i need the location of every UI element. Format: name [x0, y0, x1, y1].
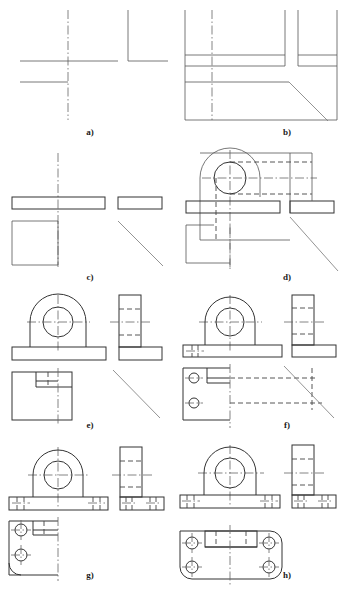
panel-h-top-view-boss-rect [205, 531, 257, 547]
panel-g-bolt-hole-front-left [12, 497, 30, 510]
panel-e-side-view-vertical-leg [119, 295, 141, 347]
panel-h-side-view-hidden-bore [292, 459, 314, 485]
panel-f [172, 290, 344, 438]
panel-g-top-bolt-hole-lower [11, 545, 31, 565]
panel-b-front-view-box [185, 10, 285, 120]
panel-h-side-bolt-hole-left [294, 495, 309, 508]
panel-e-top-view-outline [12, 372, 72, 420]
panel-h-bolt-hole-front-left [182, 495, 200, 508]
panel-d-top-view-outline [186, 225, 230, 263]
panel-c-base-plate-side [118, 197, 162, 209]
panel-b [172, 0, 344, 148]
panel-e-top-view-step [36, 372, 72, 387]
panel-g-bolt-hole-front-right [88, 497, 105, 510]
panel-d-base-plate-side [290, 201, 334, 213]
panel-h-top-bolt-hole-upper-right [259, 533, 279, 553]
panel-d-projection-lines [290, 153, 312, 201]
panel-d [172, 145, 344, 293]
panel-e-mitre-line [113, 370, 160, 418]
caption-e: e) [75, 420, 105, 430]
caption-b: b) [272, 127, 302, 137]
panel-f-bolt-hole-top-lower [185, 398, 203, 408]
panel-f-side-view-vertical-leg [292, 295, 314, 345]
caption-g: g) [75, 570, 105, 580]
panel-c-mitre-line [118, 221, 163, 266]
panel-g-side-view-base [120, 497, 164, 510]
panel-c-base-plate-front [12, 197, 105, 209]
panel-f-hidden-projection-lines [230, 368, 322, 410]
panel-f-mitre-line [284, 366, 334, 418]
panel-c-top-view-square [12, 221, 58, 265]
panel-e [0, 290, 172, 438]
panel-g-side-bolt-hole-right [146, 497, 161, 510]
drawing-sheet: a) [0, 0, 344, 594]
caption-d: d) [272, 272, 302, 282]
panel-g-top-view-step [33, 521, 58, 535]
panel-f-side-view-hidden-bore [292, 308, 314, 334]
panel-g-side-view-vertical-leg [120, 447, 142, 497]
caption-f: f) [272, 420, 302, 430]
panel-f-bolt-hole-top-upper [185, 373, 203, 383]
panel-f-bolt-hole-front-hidden [186, 345, 204, 357]
panel-h-bolt-hole-front-right [260, 495, 278, 508]
panel-f-top-view-step [207, 368, 230, 383]
panel-g-top-corner-radius [9, 563, 21, 575]
panel-b-side-view-box [298, 10, 337, 120]
panel-h [172, 435, 344, 594]
panel-h-top-bolt-hole-upper-left [182, 533, 202, 553]
panel-d-mitre-line [290, 217, 338, 271]
panel-c [0, 145, 172, 293]
panel-e-base-plate-front [12, 347, 106, 360]
panel-b-mitre-line [289, 82, 328, 121]
panel-h-side-view-base [292, 495, 336, 508]
panel-h-top-view-boss-hidden [216, 531, 246, 547]
caption-a: a) [75, 127, 105, 137]
panel-e-side-view-base [119, 347, 162, 360]
panel-g-top-bolt-hole-upper [11, 520, 31, 540]
panel-h-side-bolt-hole-right [318, 495, 333, 508]
caption-h: h) [272, 570, 302, 580]
panel-a [0, 0, 172, 148]
panel-h-top-bolt-hole-lower-left [182, 557, 202, 577]
panel-g-side-view-hidden-bore [120, 461, 142, 487]
panel-g-side-bolt-hole-left [122, 497, 137, 510]
panel-a-side-view-corner [128, 10, 168, 61]
panel-h-side-view-vertical-leg [292, 445, 314, 495]
panel-b-top-view-box [185, 82, 337, 120]
caption-c: c) [75, 272, 105, 282]
panel-f-side-view-base [292, 345, 336, 357]
panel-d-front-body [200, 153, 290, 240]
